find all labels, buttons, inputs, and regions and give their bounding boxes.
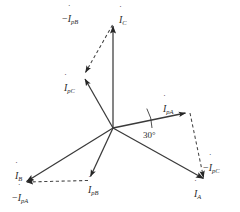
label-I_pA: İpA <box>163 99 174 116</box>
label-I_pA-base: I <box>163 103 166 114</box>
label-neg-I_pA-sub: pA <box>21 197 28 204</box>
label-neg-I_pC-sub: pC <box>212 167 220 174</box>
vector-neg-I_pA-dashed <box>27 181 89 183</box>
label-angle-30deg: 30° <box>143 130 156 140</box>
label-I_A-sub: A <box>197 193 201 200</box>
label-neg-I_pB: −İpB <box>62 9 78 26</box>
label-neg-I_pA: −İpA <box>12 188 28 205</box>
phasor-diagram-svg <box>0 0 240 212</box>
label-I_B: İB <box>15 166 22 183</box>
label-neg-I_pB-base: I <box>68 13 71 24</box>
label-I_A-base: I <box>194 188 197 199</box>
label-neg-I_pC-base: I <box>209 162 212 173</box>
label-I_A: İA <box>194 184 201 201</box>
vector-I_pA-line <box>113 113 186 128</box>
vector-neg-I_pB-dashed <box>86 25 113 73</box>
vector-I_A-line <box>113 128 204 179</box>
label-I_C-base: I <box>119 14 122 25</box>
angle-arc-30deg <box>147 109 152 128</box>
label-I_B-sub: B <box>18 175 22 182</box>
label-I_pB-base: I <box>88 184 91 195</box>
label-I_C: İC <box>119 10 127 27</box>
label-neg-I_pB-sub: pB <box>71 18 78 25</box>
label-neg-I_pA-base: I <box>18 192 21 203</box>
label-I_pB-sub: pB <box>91 189 98 196</box>
label-neg-I_pC: −İpC <box>203 158 220 175</box>
label-I_pC-base: I <box>64 82 67 93</box>
label-I_pA-sub: pA <box>166 108 173 115</box>
vector-I_pC-line <box>85 79 113 128</box>
label-I_C-sub: C <box>122 19 126 26</box>
label-I_pB: İpB <box>88 180 99 197</box>
phasor-diagram-canvas: −İpB İC İpC İpA 30° −İpC İA İB −I… <box>0 0 240 212</box>
label-I_pC: İpC <box>64 78 75 95</box>
vector-neg-I_pC-dashed <box>190 113 204 178</box>
label-I_B-base: I <box>15 170 18 181</box>
label-I_pC-sub: pC <box>67 87 75 94</box>
